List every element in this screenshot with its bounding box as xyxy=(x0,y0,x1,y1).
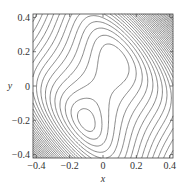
contour-path xyxy=(33,14,173,158)
x-tick-label: 0.2 xyxy=(130,160,143,171)
x-tick-label: 0.4 xyxy=(163,160,176,171)
y-tick-label: 0 xyxy=(25,81,30,92)
contour-lines xyxy=(33,14,173,158)
contour-plot: −0.4−0.4−0.2−0.2000.20.20.40.4xy xyxy=(0,0,186,191)
x-tick-label: −0.2 xyxy=(61,160,79,171)
y-tick-label: −0.4 xyxy=(12,149,30,160)
x-tick-label: −0.4 xyxy=(27,160,45,171)
y-tick-label: 0.2 xyxy=(18,46,31,57)
x-tick-label: 0 xyxy=(101,160,106,171)
y-axis-label: y xyxy=(7,80,13,91)
y-tick-label: 0.4 xyxy=(18,12,31,23)
x-axis-label: x xyxy=(100,173,106,184)
y-tick-label: −0.2 xyxy=(12,115,30,126)
